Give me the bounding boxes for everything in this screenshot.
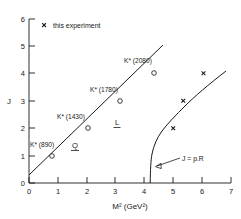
y-tick-label-3: 3 bbox=[21, 97, 25, 106]
pr-threshold-curve bbox=[150, 71, 226, 183]
q-trajectory-line bbox=[29, 45, 163, 175]
legend: this experiment bbox=[42, 22, 100, 30]
y-axis-title: J bbox=[7, 97, 11, 106]
cross-marker-point-3 bbox=[202, 71, 206, 75]
x-tick-label-4: 4 bbox=[142, 187, 146, 196]
cross-marker-point-1 bbox=[171, 126, 175, 130]
y-tick-label-0: 0 bbox=[21, 179, 25, 188]
marker-k1430 bbox=[86, 126, 91, 131]
y-tick-label-2: 2 bbox=[21, 124, 25, 133]
legend-cross-icon bbox=[42, 23, 46, 27]
q-trajectory-label: Q bbox=[72, 141, 78, 150]
x-tick-label-7: 7 bbox=[229, 187, 233, 196]
label-k890: K* (890) bbox=[30, 141, 54, 149]
x-tick-label-0: 0 bbox=[27, 187, 31, 196]
legend-entry-label: this experiment bbox=[53, 22, 101, 30]
marker-k1780 bbox=[118, 99, 123, 104]
y-tick-label-4: 4 bbox=[21, 69, 25, 78]
pr-curve-label: J = p.R bbox=[182, 155, 204, 163]
y-tick-label-5: 5 bbox=[21, 42, 25, 51]
label-k1430: K* (1430) bbox=[57, 113, 85, 121]
pr-curve-arrow-line bbox=[157, 158, 180, 166]
label-k2080: K* (2080) bbox=[124, 57, 152, 65]
label-k1780: K* (1780) bbox=[90, 86, 118, 94]
l-trajectory-label-group: L bbox=[114, 118, 121, 128]
y-tick-label-1: 1 bbox=[21, 152, 25, 161]
x-tick-label-2: 2 bbox=[85, 187, 89, 196]
q-trajectory-label-group: Q bbox=[71, 141, 79, 151]
y-axis-tick-labels: 0 1 2 3 4 5 6 bbox=[21, 15, 25, 188]
marker-k2080 bbox=[152, 71, 157, 76]
y-tick-label-6: 6 bbox=[21, 15, 25, 24]
x-tick-label-3: 3 bbox=[113, 187, 117, 196]
x-tick-label-6: 6 bbox=[200, 187, 204, 196]
x-axis-title: M² (GeV²) bbox=[112, 202, 148, 211]
x-axis-tick-labels: 0 1 2 3 4 5 6 7 bbox=[27, 187, 233, 196]
cross-marker-point-2 bbox=[181, 99, 185, 103]
x-axis-ticks bbox=[29, 177, 231, 183]
pr-curve-annotation: J = p.R bbox=[156, 155, 204, 169]
y-axis-ticks bbox=[29, 19, 35, 183]
marker-k890 bbox=[50, 154, 55, 159]
this-experiment-markers bbox=[171, 71, 205, 130]
chart-canvas: 0 1 2 3 4 5 6 7 0 1 2 3 4 5 6 bbox=[0, 0, 241, 219]
x-tick-label-1: 1 bbox=[56, 187, 60, 196]
regge-trajectory-chart: 0 1 2 3 4 5 6 7 0 1 2 3 4 5 6 bbox=[0, 0, 241, 219]
x-tick-label-5: 5 bbox=[171, 187, 175, 196]
l-trajectory-label: L bbox=[115, 118, 119, 127]
